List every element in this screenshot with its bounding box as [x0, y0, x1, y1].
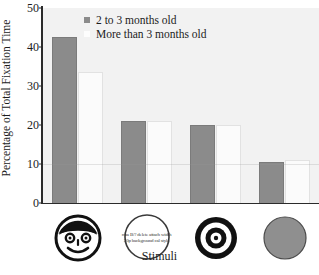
y-axis-tick-label: 50 — [27, 2, 39, 14]
x-axis-title: Stimuli — [0, 249, 319, 264]
y-axis-tick-label: 20 — [27, 119, 39, 131]
legend-label: More than 3 months old — [96, 27, 207, 41]
bar — [259, 162, 284, 203]
bar — [121, 121, 146, 203]
x-axis-title-text: Stimuli — [142, 249, 177, 263]
y-axis-tick-label: 0 — [33, 197, 39, 209]
legend-entry: 2 to 3 months old — [84, 13, 207, 27]
legend-label: 2 to 3 months old — [96, 13, 177, 27]
bar — [78, 72, 103, 203]
bar — [147, 121, 172, 203]
y-axis-tick-label: 30 — [27, 80, 39, 92]
bar-chart-figure: 01020304050 Percentage of Total Fixation… — [0, 0, 319, 275]
legend-entry: More than 3 months old — [84, 27, 207, 41]
y-axis-tick-label: 40 — [27, 41, 39, 53]
bar — [285, 160, 310, 203]
y-axis-title-text: Percentage of Total Fixation Time — [0, 19, 12, 176]
y-axis-tick-label: 10 — [27, 158, 39, 170]
legend-swatch-icon — [84, 17, 90, 23]
chart-legend: 2 to 3 months old More than 3 months old — [84, 13, 207, 41]
y-axis-title: Percentage of Total Fixation Time — [0, 0, 14, 195]
legend-swatch-icon — [84, 31, 90, 37]
bar — [52, 37, 77, 203]
gridline — [43, 164, 319, 165]
